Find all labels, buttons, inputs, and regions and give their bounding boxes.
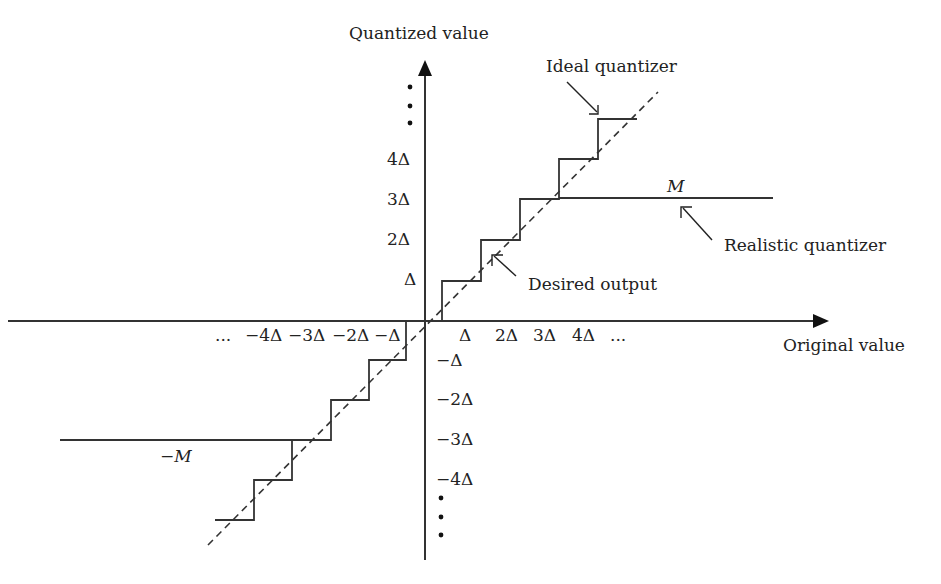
- y-tick-neg1: −Δ: [436, 350, 463, 370]
- desired-output-arrow-icon: [494, 256, 516, 276]
- desired-output-label: Desired output: [528, 274, 657, 294]
- max-label: M: [666, 176, 685, 196]
- x-tick-neg2: −2Δ: [332, 325, 369, 345]
- y-tick-pos4: 4Δ: [387, 149, 410, 169]
- ideal-quantizer-label: Ideal quantizer: [546, 56, 678, 76]
- x-tick-ellipsis-right: ...: [610, 325, 626, 345]
- y-axis-ellipsis-bottom: [439, 496, 444, 538]
- x-tick-pos1: Δ: [459, 325, 471, 345]
- axes: [8, 60, 829, 560]
- y-tick-labels-negative: −Δ −2Δ −3Δ −4Δ: [436, 350, 473, 489]
- x-axis-arrow-icon: [813, 314, 829, 328]
- y-tick-neg2: −2Δ: [436, 389, 473, 409]
- x-tick-pos2: 2Δ: [495, 325, 518, 345]
- x-tick-neg4: −4Δ: [245, 325, 282, 345]
- ideal-quantizer-arrowhead-icon: [589, 105, 598, 114]
- y-tick-pos3: 3Δ: [387, 189, 410, 209]
- y-axis-arrow-icon: [418, 60, 432, 76]
- y-tick-neg4: −4Δ: [436, 469, 473, 489]
- y-tick-pos1: Δ: [404, 269, 416, 289]
- y-axis-title: Quantized value: [349, 23, 489, 43]
- x-tick-ellipsis-left: ...: [215, 325, 231, 345]
- realistic-quantizer-arrow-icon: [683, 208, 712, 240]
- desired-output-arrowhead-icon: [492, 255, 503, 266]
- realistic-quantizer-label: Realistic quantizer: [724, 235, 887, 255]
- quantizer-staircase-negative: [215, 321, 425, 520]
- quantizer-diagram: Quantized value Original value Ideal qua…: [0, 0, 941, 584]
- y-tick-labels-positive: 4Δ 3Δ 2Δ Δ: [387, 149, 416, 289]
- x-tick-neg1: −Δ: [374, 325, 401, 345]
- y-axis-ellipsis-top: [408, 85, 413, 126]
- y-tick-neg3: −3Δ: [436, 429, 473, 449]
- y-tick-pos2: 2Δ: [387, 229, 410, 249]
- min-label: −M: [160, 446, 192, 466]
- ideal-quantizer-arrow-icon: [567, 82, 597, 112]
- x-tick-pos3: 3Δ: [533, 325, 556, 345]
- x-tick-pos4: 4Δ: [572, 325, 595, 345]
- x-axis-title: Original value: [783, 335, 905, 355]
- ideal-quantizer-line: [208, 92, 658, 545]
- x-tick-labels: ... −4Δ −3Δ −2Δ −Δ Δ 2Δ 3Δ 4Δ ...: [215, 325, 626, 345]
- x-tick-neg3: −3Δ: [288, 325, 325, 345]
